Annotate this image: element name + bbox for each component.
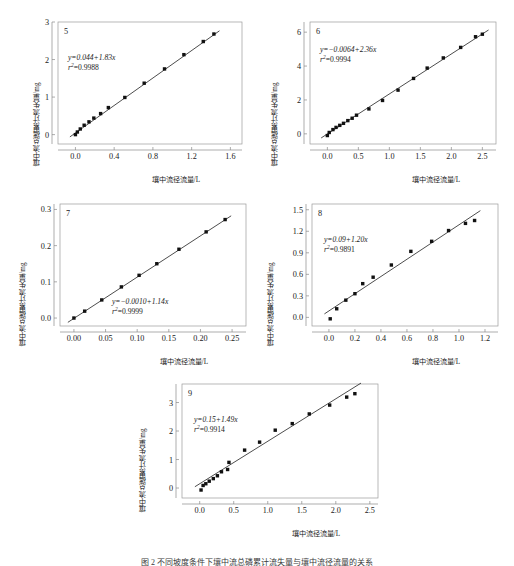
data-point: [353, 292, 356, 295]
y-tick-label: 3: [169, 399, 173, 408]
data-point: [481, 33, 484, 36]
x-tick-label: 2.5: [477, 152, 487, 161]
y-tick-label: 1.5: [293, 206, 303, 215]
x-tick-label: 1.2: [480, 334, 490, 343]
data-point: [243, 448, 246, 451]
r-squared-label: r2=0.9914: [194, 424, 225, 434]
x-tick-label: 1.0: [263, 506, 273, 515]
data-point: [334, 126, 337, 129]
y-tick-label: 2: [297, 96, 301, 105]
plot-frame: [60, 204, 246, 326]
data-point: [107, 106, 110, 109]
data-point: [220, 470, 223, 473]
y-tick-label: 0.0: [293, 313, 303, 322]
y-tick-label: 0.3: [293, 292, 303, 301]
chart-panel-7: 壤中流总磷累计流失量/mg 0.00.10.20.30.000.050.100.…: [16, 196, 256, 374]
plot-area-6: 02460.00.51.01.52.02.56y=−0.0064+2.36xr2…: [268, 14, 506, 172]
data-point: [120, 285, 123, 288]
panel-number: 6: [316, 27, 320, 36]
y-axis-label-9: 壤中流总磷累计流失量/mg: [140, 382, 147, 512]
x-tick-label: 0.0: [324, 334, 334, 343]
data-point: [396, 88, 399, 91]
data-point: [335, 307, 338, 310]
data-point: [216, 474, 219, 477]
data-point: [182, 53, 185, 56]
data-point: [177, 248, 180, 251]
data-point: [326, 134, 329, 137]
x-tick-label: 0.4: [376, 334, 386, 343]
data-point: [226, 468, 229, 471]
x-axis-label-5: 壤中流径流量/L: [116, 174, 236, 184]
data-point: [258, 440, 261, 443]
y-tick-label: 0.0: [41, 314, 51, 323]
x-axis-label-8: 壤中流径流量/L: [376, 356, 496, 366]
data-point: [328, 131, 331, 134]
data-point: [204, 230, 207, 233]
equation-label: y=0.09+1.20x: [323, 235, 368, 244]
x-tick-label: 0.0: [322, 152, 332, 161]
y-tick-label: 0: [45, 131, 49, 140]
x-tick-label: 1.5: [415, 152, 425, 161]
y-tick-label: 0: [169, 484, 173, 493]
plot-frame: [310, 22, 496, 144]
y-axis-label-7: 壤中流总磷累计流失量/mg: [20, 216, 27, 346]
data-point: [412, 77, 415, 80]
data-point: [442, 56, 445, 59]
panel-number: 8: [318, 209, 322, 218]
y-axis-label-6: 壤中流总磷累计流失量/mg: [272, 36, 279, 166]
r-squared-label: r2=0.9994: [320, 54, 351, 64]
x-axis-label-7: 壤中流径流量/L: [124, 356, 244, 366]
y-axis-label-8: 壤中流总磷累计流失量/mg: [268, 216, 275, 346]
y-tick-label: 1: [169, 456, 173, 465]
r-squared-label: r2=0.9999: [112, 306, 143, 316]
panel-number: 5: [64, 27, 68, 36]
data-point: [291, 422, 294, 425]
data-point: [212, 32, 215, 35]
data-point: [328, 403, 331, 406]
data-point: [342, 122, 345, 125]
x-tick-label: 0.8: [148, 152, 158, 161]
data-point: [99, 112, 102, 115]
data-point: [381, 99, 384, 102]
data-point: [82, 124, 85, 127]
plot-frame: [312, 204, 498, 326]
x-tick-label: 1.0: [384, 152, 394, 161]
x-tick-label: 1.0: [454, 334, 464, 343]
x-tick-label: 0.5: [229, 506, 239, 515]
data-point: [345, 395, 348, 398]
x-tick-label: 0.20: [193, 334, 207, 343]
data-point: [100, 298, 103, 301]
x-tick-label: 2.5: [365, 506, 375, 515]
y-tick-label: 6: [297, 28, 301, 37]
data-point: [473, 219, 476, 222]
r-squared-label: r2=0.9891: [324, 244, 355, 254]
data-point: [79, 127, 82, 130]
chart-panel-5: 壤中流总磷累计流失量/mg 01230.00.40.81.21.65y=0.04…: [16, 14, 252, 192]
chart-panel-9: 壤中流总磷累计流失量/mg 01230.00.51.01.52.02.59y=0…: [138, 376, 388, 548]
y-tick-label: 4: [297, 62, 301, 71]
data-point: [409, 250, 412, 253]
x-tick-label: 0.25: [225, 334, 239, 343]
data-point: [344, 298, 347, 301]
x-tick-label: 0.10: [130, 334, 144, 343]
x-tick-label: 2.0: [446, 152, 456, 161]
y-tick-label: 2: [45, 56, 49, 65]
data-point: [425, 66, 428, 69]
data-point: [367, 107, 370, 110]
data-point: [474, 35, 477, 38]
data-point: [331, 128, 334, 131]
x-tick-label: 0.4: [109, 152, 119, 161]
plot-area-9: 01230.00.51.01.52.02.59y=0.15+1.49xr2=0.…: [138, 376, 388, 526]
plot-area-7: 0.00.10.20.30.000.050.100.150.200.257y=−…: [16, 196, 256, 354]
x-tick-label: 0.15: [162, 334, 176, 343]
x-tick-label: 0.6: [402, 334, 412, 343]
x-tick-label: 0.5: [353, 152, 363, 161]
x-tick-label: 0.0: [195, 506, 205, 515]
x-tick-label: 0.2: [350, 334, 360, 343]
panel-number: 9: [188, 389, 192, 398]
data-point: [371, 276, 374, 279]
y-tick-label: 1.2: [293, 227, 303, 236]
y-tick-label: 0.1: [41, 278, 51, 287]
data-point: [390, 263, 393, 266]
r-squared-label: r2=0.9988: [68, 62, 99, 72]
